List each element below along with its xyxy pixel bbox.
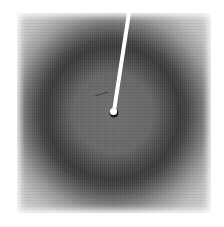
beam-stop-disc (110, 108, 117, 115)
streak (95, 92, 108, 96)
beam-stop-arm (114, 13, 129, 111)
beam-stop (0, 0, 224, 227)
